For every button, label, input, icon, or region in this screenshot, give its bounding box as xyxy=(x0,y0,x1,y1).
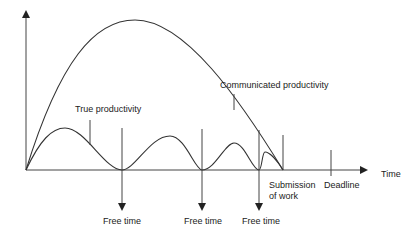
submission-label-line2: of work xyxy=(269,191,299,201)
x-axis-label: Time xyxy=(381,169,401,179)
free-time-label-3: Free time xyxy=(242,216,280,226)
true-productivity-curve xyxy=(26,128,283,170)
productivity-diagram: Time Communicated productivity True prod… xyxy=(0,0,419,239)
true-productivity-label: True productivity xyxy=(75,104,142,114)
free-time-label-2: Free time xyxy=(184,216,222,226)
communicated-productivity-curve xyxy=(26,20,283,170)
communicated-productivity-label: Communicated productivity xyxy=(220,80,329,90)
deadline-label: Deadline xyxy=(324,180,360,190)
free-time-label-1: Free time xyxy=(103,216,141,226)
submission-label-line1: Submission xyxy=(269,180,316,190)
